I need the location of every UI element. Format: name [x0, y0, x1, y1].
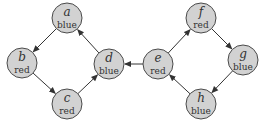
node-e: ered	[143, 49, 173, 79]
node-color-label: red	[193, 20, 209, 30]
edges-layer	[33, 29, 233, 94]
node-name-label: h	[197, 91, 205, 105]
node-name-label: e	[154, 51, 161, 65]
node-name-label: c	[64, 91, 71, 105]
node-color-label: red	[14, 65, 30, 75]
node-name-label: d	[105, 51, 113, 65]
node-b: bred	[7, 48, 37, 78]
edge-b-to-c	[33, 73, 55, 93]
node-color-label: blue	[99, 66, 119, 76]
node-color-label: blue	[191, 106, 211, 116]
edge-d-to-a	[78, 30, 99, 53]
node-a: ablue	[52, 3, 82, 33]
directed-graph: abluebredcreddblueeredfredgbluehblue	[0, 0, 269, 126]
edge-a-to-b	[33, 29, 56, 52]
node-name-label: g	[239, 47, 247, 61]
edge-e-to-f	[168, 30, 190, 53]
nodes-layer: abluebredcreddblueeredfredgbluehblue	[7, 3, 258, 119]
node-d: dblue	[94, 49, 124, 79]
node-name-label: b	[18, 50, 26, 64]
node-h: hblue	[186, 89, 216, 119]
node-name-label: a	[63, 5, 70, 19]
node-f: fred	[186, 3, 216, 33]
edge-g-to-h	[212, 71, 233, 93]
node-color-label: blue	[57, 20, 77, 30]
node-c: cred	[52, 89, 82, 119]
node-g: gblue	[228, 45, 258, 75]
edge-h-to-e	[170, 75, 190, 94]
edge-f-to-g	[212, 29, 232, 49]
node-color-label: red	[59, 106, 75, 116]
edge-c-to-d	[78, 75, 98, 94]
node-color-label: blue	[233, 62, 253, 72]
node-color-label: red	[150, 66, 166, 76]
